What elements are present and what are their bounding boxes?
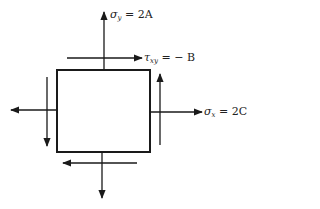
- sigma-x-symbol: σ: [204, 105, 212, 118]
- tau-xy-value: = − B: [162, 51, 196, 64]
- sigma-y-label: σy = 2A: [110, 9, 153, 22]
- sigma-x-label: σx = 2C: [204, 106, 247, 119]
- sigma-y-subscript: y: [118, 14, 122, 22]
- sigma-y-value: = 2A: [125, 8, 153, 21]
- sigma-x-subscript: x: [212, 111, 216, 119]
- stress-element-square: [57, 70, 150, 152]
- sigma-x-value: = 2C: [219, 105, 247, 118]
- tau-xy-subscript: xy: [150, 57, 158, 65]
- tau-xy-label: τxy = − B: [144, 52, 195, 65]
- sigma-y-symbol: σ: [110, 8, 118, 21]
